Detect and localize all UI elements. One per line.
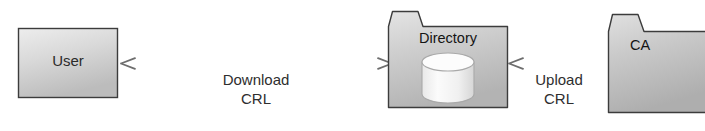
ca-folder-shape <box>609 15 705 113</box>
node-user[interactable] <box>19 29 118 98</box>
node-ca[interactable] <box>609 15 705 113</box>
user-box-shape <box>19 29 118 98</box>
database-cylinder-icon <box>422 53 474 103</box>
diagram-graphics-layer <box>0 0 705 131</box>
crl-distribution-diagram: User Directory CA Download CRL Upload CR… <box>0 0 705 131</box>
edge-download-crl[interactable] <box>121 58 392 69</box>
edge-upload-crl[interactable] <box>509 58 609 69</box>
node-directory[interactable] <box>389 12 508 108</box>
